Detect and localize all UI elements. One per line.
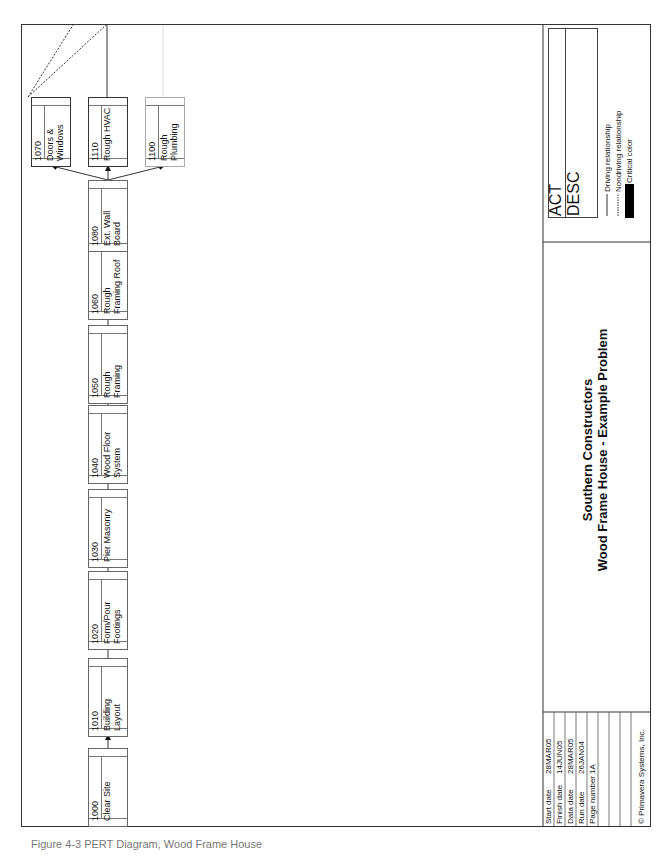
figure-caption: Figure 4-3 PERT Diagram, Wood Frame Hous…: [31, 838, 262, 850]
info-label: Page number: [588, 776, 598, 824]
node-id: 1070: [33, 141, 43, 161]
node-id: 1030: [90, 542, 100, 562]
node-desc-line1: Rough: [159, 134, 169, 161]
info-label: Data date: [566, 789, 576, 824]
legend-nondriving: Nondriving relationship: [614, 111, 624, 192]
node-id: 1020: [90, 624, 100, 644]
node-desc-line2: System: [112, 448, 122, 478]
node-desc: Pier Masonry: [102, 509, 112, 562]
node-stripe: [89, 406, 127, 414]
activity-node-1070[interactable]: 1070 Doors & Windows: [31, 97, 71, 167]
node-desc-line1: Ext. Wall: [102, 211, 112, 246]
node-stripe: [89, 181, 127, 189]
title-company: Southern Constructors: [580, 280, 595, 620]
legend-act: ACT: [548, 184, 564, 216]
node-stripe: [32, 98, 70, 106]
node-stripe: [89, 572, 127, 580]
activity-node-1100[interactable]: 1100 Rough Plumbing: [145, 97, 185, 167]
node-desc-line2: Layout: [112, 704, 122, 731]
node-desc-line2: Windows: [55, 124, 65, 161]
node-desc-line2: Framing Roof: [112, 259, 122, 314]
node-desc-line2: Framing: [112, 365, 122, 398]
node-desc-line1: Building: [102, 699, 112, 731]
node-id: 1060: [90, 294, 100, 314]
info-table: Start date 28MAR05 Finish date 14JUN05 D…: [543, 712, 651, 826]
info-value: 28MAR05: [544, 738, 554, 774]
activity-node-1010[interactable]: 1010 Building Layout: [88, 658, 128, 737]
info-label: Start date: [544, 789, 554, 824]
node-desc-line2: Footings: [112, 609, 122, 644]
info-label: Run date: [577, 792, 587, 824]
activity-node-1080[interactable]: 1080 Ext. Wall Board: [88, 180, 128, 252]
node-stripe: [89, 749, 127, 757]
info-value: 26JAN04: [577, 741, 587, 774]
activity-node-1050[interactable]: 1050 Rough Framing: [88, 325, 128, 404]
node-stripe: [89, 98, 127, 106]
node-desc-line1: Rough: [102, 371, 112, 398]
node-stripe: [146, 98, 184, 106]
activity-node-1000[interactable]: 1000 Clear Site: [88, 748, 128, 827]
node-desc: Clear Site: [102, 781, 112, 821]
node-id: 1080: [90, 226, 100, 246]
copyright: © Primavera Systems, Inc.: [637, 729, 647, 824]
node-id: 1110: [90, 142, 100, 161]
activity-node-1040[interactable]: 1040 Wood Floor System: [88, 405, 128, 484]
node-desc: Rough HVAC: [102, 108, 112, 161]
node-stripe: [89, 490, 127, 498]
activity-node-1020[interactable]: 1020 Form/Pour Footings: [88, 571, 128, 650]
node-stripe: [89, 326, 127, 334]
node-desc-line2: Plumbing: [169, 123, 179, 161]
legend-desc: DESC: [566, 172, 582, 216]
node-id: 1010: [90, 711, 100, 731]
activity-node-1110[interactable]: 1110 Rough HVAC: [88, 97, 128, 167]
node-stripe: [89, 659, 127, 667]
info-value: 28MAR05: [566, 738, 576, 774]
node-desc-line1: Doors &: [45, 128, 55, 161]
node-id: 1050: [90, 378, 100, 398]
legend-driving: Driving relationship: [603, 124, 613, 192]
node-id: 1100: [147, 142, 157, 161]
activity-node-1030[interactable]: 1030 Pier Masonry: [88, 489, 128, 568]
legend-critical: Critical color: [625, 139, 635, 183]
node-desc-line1: Rough: [102, 287, 112, 314]
node-desc-line1: Wood Floor: [102, 432, 112, 478]
info-value: 14JUN05: [555, 741, 565, 774]
node-desc-line2: Board: [112, 222, 122, 246]
node-id: 1040: [90, 458, 100, 478]
node-id: 1000: [90, 801, 100, 821]
info-label: Finish date: [555, 785, 565, 824]
node-desc-line1: Form/Pour: [102, 601, 112, 644]
activity-node-1060[interactable]: 1060 Rough Framing Roof: [88, 241, 128, 320]
info-value: 1A: [588, 764, 598, 774]
title-project: Wood Frame House - Example Problem: [595, 280, 610, 620]
